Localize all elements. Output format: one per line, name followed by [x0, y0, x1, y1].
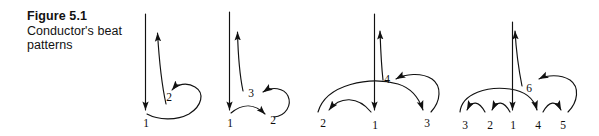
beat-label: 4 — [384, 73, 390, 85]
three-beat-upstroke — [238, 32, 244, 91]
beat-label: 5 — [560, 119, 566, 131]
beat-label: 1 — [227, 117, 233, 129]
beat-label: 1 — [510, 119, 516, 131]
beat-label: 3 — [248, 87, 254, 99]
six-beat-arc-two-to-three — [467, 103, 485, 112]
beat-label: 2 — [487, 119, 493, 131]
beat-label: 3 — [424, 117, 430, 129]
beat-label: 2 — [270, 114, 276, 126]
beat-label: 3 — [462, 119, 468, 131]
beat-patterns-illustration: 1 2 1 2 3 — [0, 0, 599, 136]
three-beat-arc-one-to-two — [231, 106, 265, 114]
three-beat-pattern: 1 2 3 — [227, 12, 289, 129]
four-beat-arc-one-to-two — [329, 100, 371, 112]
two-beat-pattern: 1 2 — [143, 14, 201, 129]
six-beat-pattern: 3 2 1 4 5 6 — [460, 22, 577, 131]
four-beat-pattern: 2 1 3 4 — [318, 14, 439, 131]
six-beat-arc-four-to-five — [543, 103, 561, 112]
six-beat-arc-five-to-six — [539, 76, 577, 112]
beat-label: 6 — [526, 82, 532, 94]
six-beat-upstroke — [515, 31, 522, 86]
beat-label: 2 — [166, 91, 172, 103]
four-beat-arc-two-to-three — [318, 81, 423, 112]
four-beat-arc-three-to-four — [396, 74, 439, 112]
beat-label: 1 — [372, 119, 378, 131]
three-beat-arc-two-to-three — [263, 89, 289, 117]
six-beat-arc-one-to-two — [492, 103, 510, 112]
four-beat-upstroke — [380, 31, 383, 80]
beat-label: 4 — [535, 119, 541, 131]
beat-label: 1 — [143, 117, 149, 129]
two-beat-rebound-curve — [147, 84, 201, 119]
two-beat-upstroke — [158, 33, 167, 104]
figure-container: Figure 5.1 Conductor's beat patterns 1 2 — [0, 0, 599, 136]
beat-label: 2 — [320, 117, 326, 129]
